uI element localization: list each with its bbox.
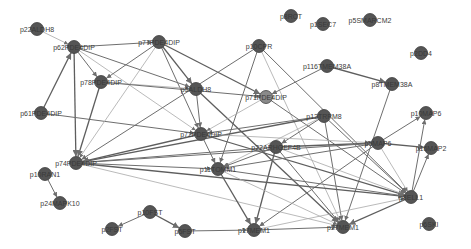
edge-n4-n21	[81, 46, 259, 159]
node-label: p16MAP2	[416, 145, 447, 153]
node-p22aldh8[interactable]: p22ALDH8	[20, 23, 54, 36]
node-label: p27MEM1	[327, 224, 359, 232]
edge-n18-n30	[276, 147, 405, 195]
node-label: p62PDE4DIP	[53, 44, 95, 52]
node-label: p22ARHGEF4B	[251, 144, 301, 152]
node-label: p116TMEM38A	[303, 63, 351, 71]
edge-n10-n29	[345, 84, 392, 221]
edge-n3-n11	[106, 42, 159, 78]
edge-n2-n21	[74, 47, 76, 157]
edge-n30-n16	[411, 119, 425, 197]
node-p61pde4dip[interactable]: p61PDE4DIP	[20, 107, 62, 120]
node-p2fst[interactable]: p2FST	[101, 223, 123, 236]
node-label: p24MAPK10	[40, 200, 79, 208]
node-label: p8TMEM38A	[372, 81, 413, 89]
node-label: p10CPR	[246, 43, 272, 51]
edge-n14-n2	[41, 53, 71, 113]
edge-n11-n21	[78, 82, 101, 157]
node-p24mapk10[interactable]: p24MAPK10	[40, 197, 79, 210]
node-label: p2DD4	[410, 50, 432, 58]
node-label: p61PDE4DIP	[20, 110, 62, 118]
node-p1sec7[interactable]: p1SEC7	[310, 18, 336, 31]
edge-n30-n29	[349, 197, 411, 224]
node-p10ran1[interactable]: p10RAN1	[30, 168, 60, 181]
node-p10map6[interactable]: p10MAP6	[411, 107, 442, 120]
node-label: p71PDE4DIP	[245, 94, 287, 102]
node-p62pde4dip[interactable]: p62PDE4DIP	[53, 41, 95, 54]
node-p10cpr[interactable]: p10CPR	[246, 40, 272, 53]
node-p6ski[interactable]: p6SKI	[419, 218, 438, 231]
edge-n24-n28	[218, 169, 251, 224]
node-label: p6SKI	[419, 221, 438, 229]
node-p77pde4dip[interactable]: p77PDE4DIP	[138, 36, 180, 49]
node-label: p10MAP6	[411, 110, 442, 118]
node-p2dd4[interactable]: p2DD4	[410, 47, 432, 60]
node-label: p22ALDH8	[20, 26, 54, 34]
node-label: p8RCT	[280, 13, 303, 21]
node-label: p72PDE4DIP	[180, 131, 222, 139]
node-p8ell1[interactable]: p8ELL1	[399, 191, 423, 204]
node-label: p5FST	[174, 228, 196, 236]
node-p78pde4dip[interactable]: p78PDE4DIP	[80, 76, 122, 89]
node-p5map6[interactable]: p5MAP6	[365, 137, 392, 150]
node-p17mem1[interactable]: p17MEM1	[238, 224, 270, 237]
node-p74pde4dip[interactable]: p74PDE4DIP	[55, 157, 97, 170]
node-label: p8ELL1	[399, 194, 423, 202]
node-label: p77PDE4DIP	[138, 39, 180, 47]
node-label: p17MEM1	[238, 227, 270, 235]
node-label: p10FST	[138, 209, 164, 217]
node-p8rct[interactable]: p8RCT	[280, 10, 303, 23]
network-graph: p22ALDH8p62PDE4DIPp77PDE4DIPp10CPRp8RCTp…	[0, 0, 471, 249]
node-label: p2FST	[101, 226, 123, 234]
edge-n12-n29	[196, 89, 338, 223]
edge-n19-n28	[259, 143, 378, 226]
node-label: p1SEC7	[310, 21, 336, 29]
node-label: p5ALDH8	[181, 86, 211, 94]
edge-n15-n30	[324, 116, 406, 193]
node-label: p11TOMM1	[200, 166, 236, 174]
node-label: p5SMARCM2	[349, 17, 392, 25]
node-p5smarcm2[interactable]: p5SMARCM2	[349, 14, 392, 27]
edge-n18-n28	[256, 147, 276, 224]
node-p12trpm8[interactable]: p12TRPM8	[306, 110, 342, 123]
edge-layer	[37, 29, 429, 231]
node-label: p74PDE4DIP	[55, 160, 97, 168]
node-label: p12TRPM8	[306, 113, 342, 121]
node-label: p5MAP6	[365, 140, 392, 148]
edge-n9-n13	[272, 66, 327, 94]
edge-n30-n20	[411, 154, 429, 197]
node-label: p78PDE4DIP	[80, 79, 122, 87]
node-label: p10RAN1	[30, 171, 60, 179]
edge-n14-n17	[41, 113, 195, 133]
